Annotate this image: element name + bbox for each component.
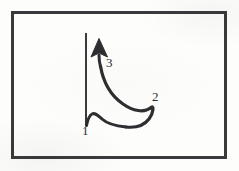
rectangular-border [13, 13, 226, 158]
curve-label-1: 1 [82, 124, 89, 137]
diagram-canvas [0, 0, 239, 171]
curve-label-2: 2 [152, 90, 159, 103]
curve-label-3: 3 [106, 56, 113, 69]
figure-container: 1 2 3 [0, 0, 239, 171]
wavy-baseline [87, 114, 127, 127]
swept-curve-descending [101, 66, 151, 111]
